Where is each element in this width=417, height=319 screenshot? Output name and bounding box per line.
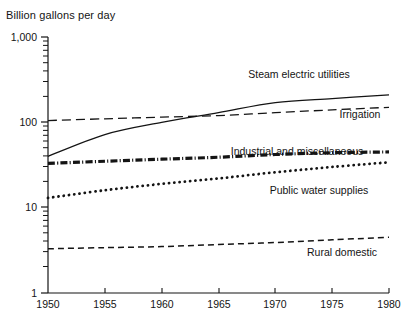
series-lines: [48, 95, 389, 249]
x-tick-label-1955: 1955: [93, 298, 117, 310]
x-tick-label-1980: 1980: [377, 298, 401, 310]
y-tick-label-1000: 1,000: [11, 31, 37, 43]
series-label-public-water-supplies: Public water supplies: [270, 184, 369, 196]
x-tick-label-1960: 1960: [150, 298, 174, 310]
x-tick-label-1950: 1950: [36, 298, 60, 310]
series-label-industrial-and-miscellaneous: Industrial and miscellaneous: [231, 145, 364, 157]
chart-svg: 1,000 100 10 1 1950 1955 1960 1965 1970 …: [0, 0, 417, 319]
x-tick-label-1975: 1975: [320, 298, 344, 310]
chart-container: Billion gallons per day: [0, 0, 417, 319]
x-tick-label-1970: 1970: [263, 298, 287, 310]
series-label-irrigation: Irrigation: [340, 108, 381, 120]
x-axis-ticks: [105, 288, 389, 293]
y-tick-label-100: 100: [19, 116, 37, 128]
series-label-rural-domestic: Rural domestic: [307, 246, 377, 258]
y-axis-minor-ticks: [43, 41, 48, 267]
x-tick-label-1965: 1965: [207, 298, 231, 310]
y-axis-major-ticks: [41, 37, 48, 293]
y-tick-label-10: 10: [25, 201, 37, 213]
series-label-steam-electric-utilities: Steam electric utilities: [248, 68, 350, 80]
series-line-irrigation: [48, 107, 389, 120]
